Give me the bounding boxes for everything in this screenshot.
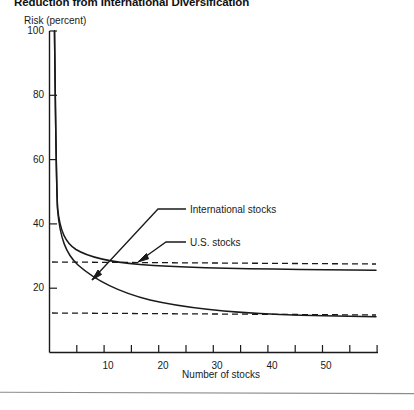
x-axis-ticks (77, 345, 377, 353)
figure-container: Reduction from International Diversifica… (0, 0, 414, 410)
asymptote-us-stocks (52, 262, 376, 264)
leader-international-stocks (92, 209, 186, 280)
curve-international-stocks (55, 31, 377, 317)
plot-area (0, 0, 414, 410)
curve-us-stocks (55, 31, 377, 270)
footer-divider (0, 391, 414, 395)
asymptote-international-stocks (52, 313, 376, 315)
leader-us-stocks (138, 242, 186, 262)
